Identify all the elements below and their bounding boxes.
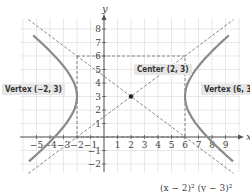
hyperbola-graph: xy−5−4−3−2−1123456789−2−112345678 Center… [0,0,250,192]
y-tick-label: 4 [95,78,101,88]
plot-area: xy−5−4−3−2−1123456789−2−112345678 [0,0,250,192]
x-tick-label: 1 [115,140,121,150]
y-tick-label: −2 [88,159,101,169]
y-tick-label: 7 [95,38,101,48]
y-tick-label: 2 [95,105,101,115]
y-tick-label: 5 [95,65,101,75]
x-tick-label: −3 [57,140,71,150]
y-tick-label: 1 [95,119,101,129]
x-tick-label: 4 [155,140,161,150]
x-tick-label: 3 [142,140,148,150]
y-axis-arrow-icon [102,14,107,20]
y-axis-label: y [101,3,108,14]
label-vertex-left: Vertex (−2, 3) [2,84,65,95]
x-tick-label: 9 [223,140,229,150]
center-point [129,94,133,98]
y-tick-label: 8 [95,24,101,34]
label-vertex-right: Vertex (6, 3) [201,84,250,95]
label-center: Center (2, 3) [134,64,192,75]
y-tick-label: 3 [95,92,101,102]
x-tick-label: −5 [30,140,44,150]
equation-text: (x − 2)² (y − 3)² [160,183,232,192]
x-tick-label: −2 [70,140,83,150]
x-tick-label: 5 [169,140,175,150]
x-tick-label: 6 [182,140,188,150]
y-tick-label: −1 [88,146,101,156]
x-axis-arrow-icon [238,135,244,140]
x-tick-label: 2 [128,140,134,150]
x-axis-label: x [246,131,250,142]
